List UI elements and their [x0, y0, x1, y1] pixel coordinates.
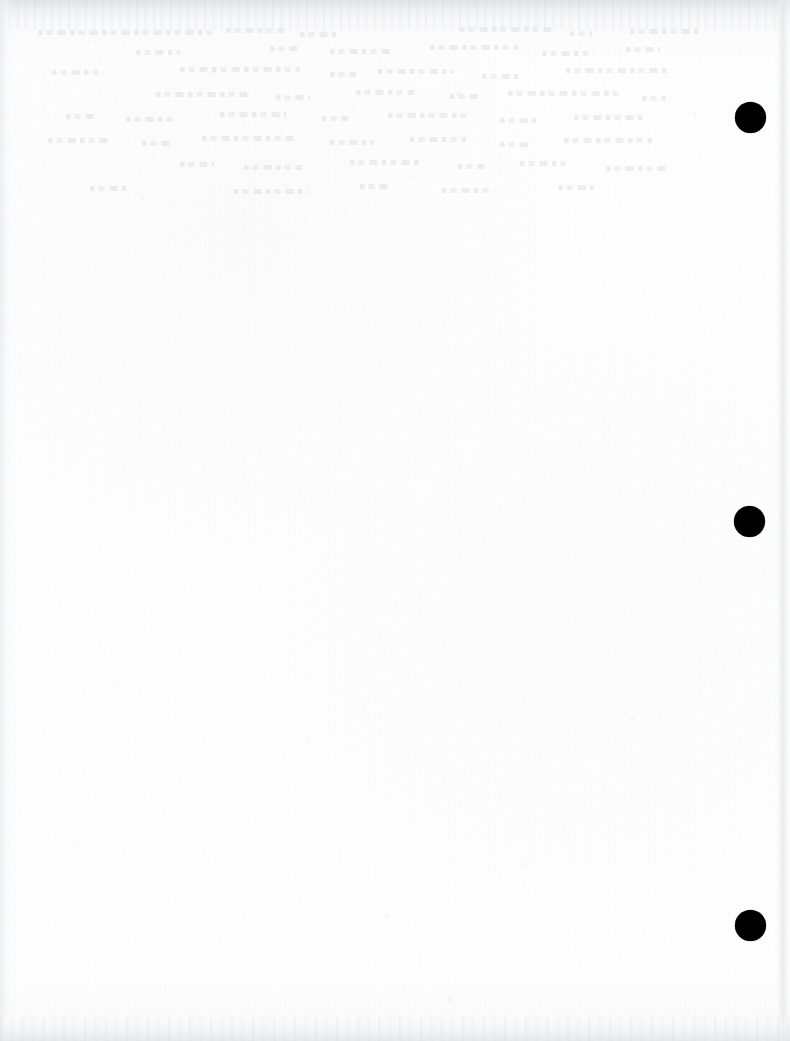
- reverse-side-showthrough: [30, 26, 690, 216]
- showthrough-text-line: [388, 113, 470, 118]
- showthrough-text-line: [482, 74, 522, 79]
- showthrough-text-line: [360, 184, 390, 189]
- scanned-page: [0, 0, 790, 1041]
- showthrough-text-line: [458, 164, 484, 169]
- showthrough-text-line: [66, 114, 96, 119]
- showthrough-text-line: [234, 189, 308, 194]
- showthrough-text-line: [626, 47, 660, 52]
- showthrough-text-line: [136, 50, 180, 55]
- showthrough-text-line: [500, 142, 530, 147]
- showthrough-text-line: [52, 70, 104, 75]
- showthrough-text-line: [330, 72, 356, 77]
- showthrough-text-line: [330, 140, 374, 145]
- scan-edge-shadow-left: [0, 0, 16, 1041]
- showthrough-text-line: [642, 96, 666, 101]
- showthrough-text-line: [156, 92, 248, 97]
- showthrough-text-line: [270, 46, 300, 51]
- showthrough-text-line: [378, 69, 454, 74]
- showthrough-text-line: [520, 161, 566, 166]
- showthrough-text-line: [322, 116, 348, 121]
- showthrough-text-line: [410, 137, 466, 142]
- showthrough-text-line: [90, 186, 130, 191]
- scan-edge-grain-top: [0, 0, 790, 30]
- showthrough-text-line: [356, 90, 414, 95]
- showthrough-text-line: [330, 49, 392, 54]
- showthrough-text-line: [574, 115, 644, 120]
- showthrough-text-line: [606, 166, 666, 171]
- showthrough-text-line: [220, 112, 286, 117]
- showthrough-text-line: [180, 67, 300, 72]
- showthrough-text-line: [442, 188, 494, 193]
- showthrough-text-line: [142, 141, 170, 146]
- showthrough-text-line: [508, 91, 622, 96]
- registration-mark-bottom: [735, 910, 766, 941]
- showthrough-text-line: [542, 51, 594, 56]
- showthrough-text-line: [180, 162, 214, 167]
- registration-mark-middle: [734, 506, 765, 537]
- showthrough-text-line: [126, 117, 174, 122]
- showthrough-text-line: [564, 138, 652, 143]
- showthrough-text-line: [48, 138, 110, 143]
- showthrough-text-line: [276, 95, 310, 100]
- showthrough-text-line: [558, 185, 594, 190]
- page-edge-line-right: [777, 0, 790, 1041]
- showthrough-text-line: [202, 136, 298, 141]
- showthrough-text-line: [500, 118, 536, 123]
- scan-edge-grain-bottom: [0, 1017, 790, 1041]
- showthrough-text-line: [350, 160, 422, 165]
- showthrough-text-line: [450, 94, 480, 99]
- showthrough-text-line: [430, 45, 518, 50]
- showthrough-text-line: [566, 68, 670, 73]
- showthrough-text-line: [244, 165, 302, 170]
- registration-mark-top: [735, 102, 766, 133]
